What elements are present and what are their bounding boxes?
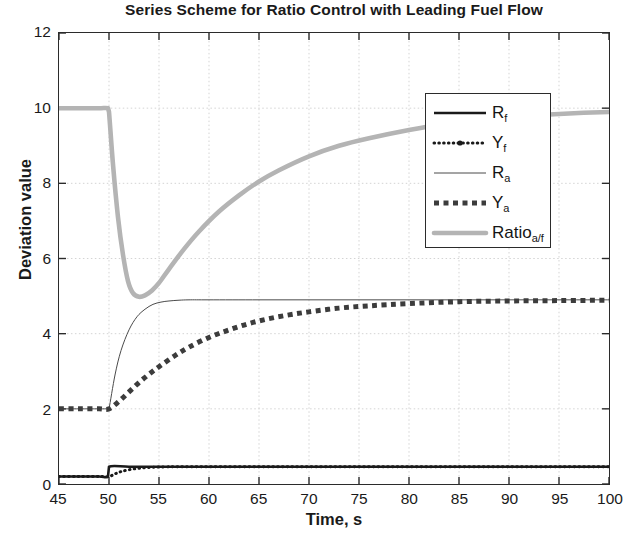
legend-label: Ratioa/f xyxy=(492,224,544,241)
legend-line-sample xyxy=(431,160,489,186)
legend-label-subscript: f xyxy=(503,142,506,154)
legend-label-subscript: a xyxy=(504,172,510,184)
x-tick-label: 70 xyxy=(286,491,332,507)
x-axis-label: Time, s xyxy=(58,510,610,529)
legend-line-sample xyxy=(431,130,489,156)
legend-line-sample xyxy=(431,100,489,126)
legend-label: Rf xyxy=(492,104,507,121)
legend-label-main: Y xyxy=(492,133,503,152)
legend-label-main: Ratio xyxy=(492,223,532,242)
y-tick-label: 12 xyxy=(9,24,51,40)
legend-label-subscript: f xyxy=(504,112,507,124)
x-tick-label: 100 xyxy=(587,491,623,507)
legend-line-sample xyxy=(431,220,489,246)
legend-label: Ya xyxy=(492,194,509,211)
legend-item-R-a[interactable]: Ra xyxy=(426,157,552,188)
legend-line-sample xyxy=(431,190,489,216)
legend-label: Yf xyxy=(492,134,506,151)
legend-label-subscript: a xyxy=(503,202,509,214)
x-tick-label: 80 xyxy=(386,491,432,507)
legend-label-subscript: a/f xyxy=(532,232,544,244)
x-tick-label: 50 xyxy=(85,491,131,507)
chart-legend: RfYfRaYaRatioa/f xyxy=(425,93,551,248)
legend-item-Y-f[interactable]: Yf xyxy=(426,127,552,158)
series-line-Y-a xyxy=(59,300,609,409)
legend-label-main: R xyxy=(492,163,504,182)
y-tick-label: 2 xyxy=(9,402,51,418)
series-line-Y-f xyxy=(59,467,609,477)
x-tick-label: 45 xyxy=(35,491,81,507)
legend-item-R-f[interactable]: Rf xyxy=(426,97,552,128)
x-tick-label: 60 xyxy=(186,491,232,507)
x-tick-label: 90 xyxy=(487,491,533,507)
series-line-R-a xyxy=(59,300,609,409)
figure-canvas: Series Scheme for Ratio Control with Lea… xyxy=(0,0,623,538)
legend-label-main: Y xyxy=(492,193,503,212)
x-tick-label: 55 xyxy=(135,491,181,507)
x-tick-label: 95 xyxy=(537,491,583,507)
y-axis-label: Deviation value xyxy=(16,110,35,330)
x-tick-label: 75 xyxy=(336,491,382,507)
x-tick-label: 65 xyxy=(236,491,282,507)
x-tick-label: 85 xyxy=(436,491,482,507)
legend-label: Ra xyxy=(492,164,510,181)
legend-item-Y-a[interactable]: Ya xyxy=(426,187,552,218)
legend-label-main: R xyxy=(492,103,504,122)
legend-item-Ratio-a-f[interactable]: Ratioa/f xyxy=(426,217,552,248)
chart-title: Series Scheme for Ratio Control with Lea… xyxy=(58,1,610,19)
